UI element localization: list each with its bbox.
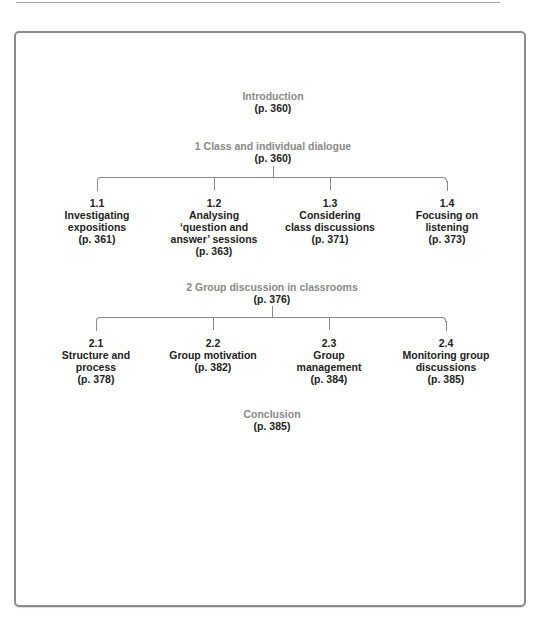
subsection-title-line: Group motivation [169, 349, 257, 361]
subsection-title-line: class discussions [285, 221, 375, 233]
introduction-page-ref: (p. 360) [242, 102, 303, 114]
subsection-number: 2.2 [169, 337, 257, 349]
subsection-page-ref: (p. 373) [416, 233, 478, 245]
subsection-title-line: Investigating [65, 209, 130, 221]
section-2-drop-1 [96, 321, 97, 331]
subsection-title-line: process [62, 361, 130, 373]
subsection-page-ref: (p. 371) [285, 233, 375, 245]
subsection-2-2: 2.2 Group motivation (p. 382) [169, 337, 257, 373]
subsection-title-line: Considering [285, 209, 375, 221]
subsection-title-line: management [297, 361, 362, 373]
section-1-drop-3 [330, 177, 331, 190]
subsection-title-line: Analysing [171, 209, 258, 221]
subsection-page-ref: (p. 378) [62, 373, 130, 385]
subsection-number: 1.2 [171, 197, 258, 209]
subsection-title-line: Focusing on [416, 209, 478, 221]
section-2-stem [272, 306, 273, 317]
subsection-title-line: discussions [403, 361, 490, 373]
subsection-number: 2.4 [403, 337, 490, 349]
subsection-title-line: Monitoring group [403, 349, 490, 361]
section-1-drop-2 [214, 177, 215, 190]
section-1-page-ref: (p. 360) [195, 152, 351, 164]
subsection-title-line: ‘question and [171, 221, 258, 233]
subsection-2-1: 2.1 Structure and process (p. 378) [62, 337, 130, 385]
subsection-1-3: 1.3 Considering class discussions (p. 37… [285, 197, 375, 245]
subsection-title-line: expositions [65, 221, 130, 233]
subsection-title-line: Group [297, 349, 362, 361]
section-1-node: 1 Class and individual dialogue (p. 360) [195, 140, 351, 164]
subsection-number: 1.4 [416, 197, 478, 209]
section-1-stem [273, 166, 274, 177]
subsection-title-line: answer’ sessions [171, 233, 258, 245]
introduction-title: Introduction [242, 90, 303, 102]
diagram-frame [14, 31, 526, 607]
subsection-2-4: 2.4 Monitoring group discussions (p. 385… [403, 337, 490, 385]
conclusion-node: Conclusion (p. 385) [243, 408, 300, 432]
subsection-number: 2.3 [297, 337, 362, 349]
section-2-title: 2 Group discussion in classrooms [186, 281, 358, 293]
section-1-title: 1 Class and individual dialogue [195, 140, 351, 152]
section-2-drop-4 [446, 321, 447, 331]
subsection-page-ref: (p. 384) [297, 373, 362, 385]
section-1-branch-line [101, 177, 443, 178]
subsection-number: 1.1 [65, 197, 130, 209]
conclusion-page-ref: (p. 385) [243, 420, 300, 432]
section-2-page-ref: (p. 376) [186, 293, 358, 305]
subsection-page-ref: (p. 385) [403, 373, 490, 385]
section-2-drop-2 [213, 317, 214, 330]
subsection-1-4: 1.4 Focusing on listening (p. 373) [416, 197, 478, 245]
subsection-title-line: listening [416, 221, 478, 233]
conclusion-title: Conclusion [243, 408, 300, 420]
subsection-1-2: 1.2 Analysing ‘question and answer’ sess… [171, 197, 258, 257]
subsection-title-line: Structure and [62, 349, 130, 361]
subsection-number: 2.1 [62, 337, 130, 349]
section-1-drop-4 [447, 181, 448, 191]
subsection-1-1: 1.1 Investigating expositions (p. 361) [65, 197, 130, 245]
subsection-page-ref: (p. 363) [171, 245, 258, 257]
subsection-2-3: 2.3 Group management (p. 384) [297, 337, 362, 385]
section-2-branch-line [100, 317, 442, 318]
section-2-drop-3 [329, 317, 330, 330]
section-1-drop-1 [97, 181, 98, 191]
subsection-number: 1.3 [285, 197, 375, 209]
subsection-page-ref: (p. 361) [65, 233, 130, 245]
top-rule [16, 2, 500, 3]
subsection-page-ref: (p. 382) [169, 361, 257, 373]
introduction-node: Introduction (p. 360) [242, 90, 303, 114]
section-2-node: 2 Group discussion in classrooms (p. 376… [186, 281, 358, 305]
